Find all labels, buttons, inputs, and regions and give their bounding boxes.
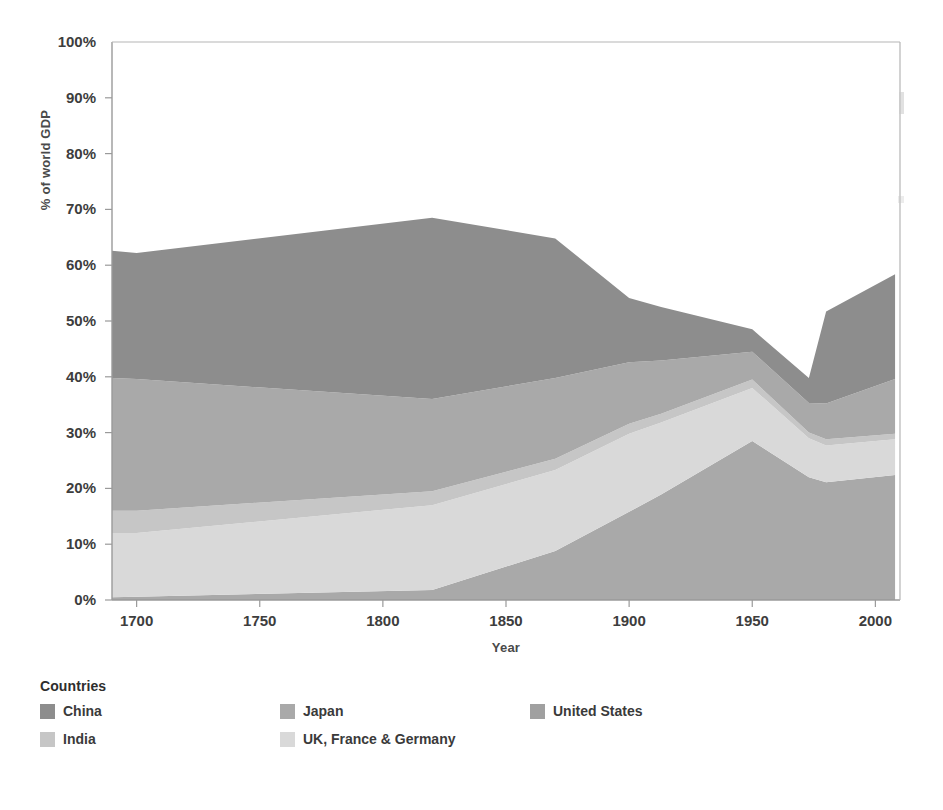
x-tick-marks [137,600,876,607]
legend-title: Countries [40,678,800,694]
legend-swatch-icon [280,704,295,719]
stacked-area-chart: % of world GDP 0%10%20%30%40%50%60%70%80… [0,0,943,810]
legend-swatch-icon [280,732,295,747]
x-axis-title-text: Year [492,640,520,655]
x-tick-label: 1850 [466,612,546,629]
x-tick-label: 1700 [97,612,177,629]
legend-item[interactable]: China [40,703,280,719]
x-axis-title: Year [112,640,900,655]
legend-item-label: Japan [303,703,343,719]
y-tick-marks [105,98,112,600]
legend-item[interactable]: United States [530,703,780,719]
y-tick-label: 10% [34,535,96,552]
legend-item-label: United States [553,703,642,719]
y-tick-label: 50% [34,312,96,329]
legend-item[interactable]: Japan [280,703,530,719]
legend-swatch-icon [40,704,55,719]
y-tick-label: 40% [34,368,96,385]
x-tick-label: 1900 [589,612,669,629]
x-tick-label: 1750 [220,612,300,629]
y-tick-label: 90% [34,89,96,106]
legend-item[interactable]: India [40,731,280,747]
legend-item-label: India [63,731,96,747]
y-tick-label: 80% [34,145,96,162]
x-tick-label: 1800 [343,612,423,629]
y-tick-label: 0% [34,591,96,608]
y-tick-label: 70% [34,200,96,217]
x-tick-label: 1950 [712,612,792,629]
legend-swatch-icon [40,732,55,747]
legend-item-label: UK, France & Germany [303,731,456,747]
scan-artifact [898,196,904,203]
area-bands [112,218,895,600]
legend-item[interactable]: UK, France & Germany [280,731,530,747]
scan-artifact [899,92,904,114]
legend: Countries ChinaJapanUnited StatesIndiaUK… [40,678,800,753]
legend-swatch-icon [530,704,545,719]
x-tick-label: 2000 [835,612,915,629]
legend-item-label: China [63,703,102,719]
y-tick-label: 100% [34,33,96,50]
y-tick-label: 20% [34,479,96,496]
y-tick-label: 30% [34,424,96,441]
y-tick-label: 60% [34,256,96,273]
legend-items: ChinaJapanUnited StatesIndiaUK, France &… [40,697,800,753]
